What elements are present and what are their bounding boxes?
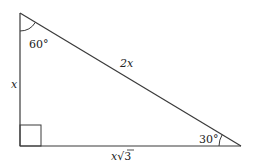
angle-arc-60 [20,22,35,31]
base-label-radicand: 3 [124,150,131,163]
angle-label-30: 30° [199,133,219,146]
side-label-hypotenuse: 2x [119,57,134,70]
side-label-vertical: x [11,78,18,91]
triangle-diagram: 60° 30° x 2x x√3 [0,0,260,168]
hypotenuse [20,13,241,146]
side-label-base: x√3 [111,150,131,163]
right-angle-marker [20,125,41,146]
angle-arc-30 [219,135,222,146]
angle-label-60: 60° [29,38,49,51]
